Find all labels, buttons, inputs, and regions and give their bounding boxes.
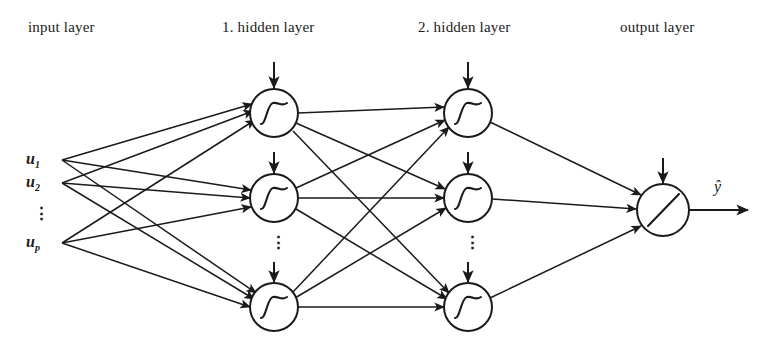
input-label-up: up [26,233,40,253]
neuron-hidden1-1 [250,89,298,137]
network-canvas [0,0,771,350]
input-label-u1: u1 [26,150,40,170]
edges-hidden1-to-hidden2 [293,107,449,307]
hidden2-ellipsis: ⋮ [464,234,481,251]
input-label-up-sub: p [35,242,40,253]
neuron-hidden2-1 [444,89,492,137]
layer-title-output: output layer [620,19,694,36]
input-label-u1-base: u [26,150,35,167]
hidden1-ellipsis: ⋮ [270,234,287,251]
layer-title-hidden1: 1. hidden layer [222,19,315,36]
neuron-output [637,184,689,236]
neuron-hidden2-2 [444,174,492,222]
layer-title-input: input layer [28,19,95,36]
input-label-u2-base: u [26,173,35,190]
layer-title-hidden2: 2. hidden layer [418,19,511,36]
network-diagram-figure: input layer 1. hidden layer 2. hidden la… [0,0,771,350]
input-label-up-base: u [26,233,35,250]
input-label-u2: u2 [26,173,40,193]
input-label-u2-sub: 2 [35,182,40,193]
edges-input-to-hidden1 [62,104,256,307]
input-label-u1-sub: 1 [35,159,40,170]
input-ellipsis: ⋮ [33,205,50,222]
edges-hidden2-to-output [490,122,641,298]
output-label-yhat: ŷ [714,178,721,196]
neuron-hidden1-2 [250,174,298,222]
neuron-hidden2-3 [444,283,492,331]
neuron-hidden1-3 [250,283,298,331]
